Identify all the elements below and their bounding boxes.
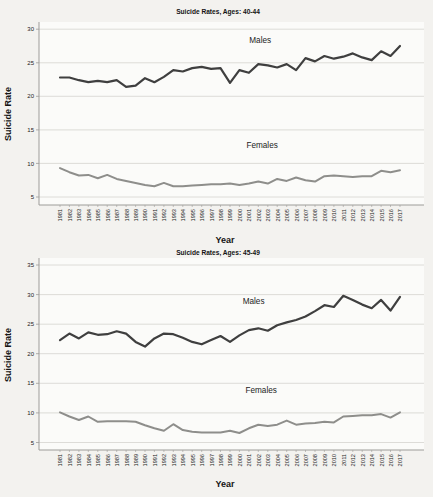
x-tick-label: 1982 <box>67 454 73 466</box>
x-tick-label: 2003 <box>265 209 271 221</box>
plot-area-45-49: 5101520253035198119821983198419851986198… <box>27 258 424 466</box>
x-tick-label: 1992 <box>161 454 167 466</box>
x-tick-label: 1988 <box>124 454 130 466</box>
x-tick-label: 1987 <box>114 454 120 466</box>
y-tick-label: 15 <box>27 127 34 133</box>
x-tick-label: 2012 <box>350 454 356 466</box>
x-tick-label: 1999 <box>227 454 233 466</box>
x-tick-label: 2003 <box>265 454 271 466</box>
plot-area-40-44: 5101520253019811982198319841985198619871… <box>27 22 424 221</box>
x-tick-label: 1994 <box>180 209 186 221</box>
x-tick-label: 1984 <box>86 454 92 466</box>
figure: Suicide Rates, Ages: 40-44 Suicide Rate … <box>0 0 433 497</box>
x-tick-label: 1988 <box>124 209 130 221</box>
x-tick-label: 2008 <box>312 454 318 466</box>
x-tick-label: 1990 <box>142 209 148 221</box>
x-tick-label: 2010 <box>331 454 337 466</box>
females-series-label: Females <box>245 386 276 395</box>
x-tick-label: 2013 <box>360 454 366 466</box>
x-tick-label: 2007 <box>303 209 309 221</box>
x-tick-label: 2006 <box>294 454 300 466</box>
x-tick-label: 1996 <box>199 209 205 221</box>
x-tick-label: 2000 <box>237 454 243 466</box>
x-tick-label: 1984 <box>86 209 92 221</box>
x-tick-label: 2009 <box>322 209 328 221</box>
x-tick-label: 1982 <box>67 209 73 221</box>
y-tick-label: 5 <box>31 194 35 200</box>
x-tick-label: 2002 <box>256 454 262 466</box>
x-tick-label: 2008 <box>312 209 318 221</box>
y-tick-label: 30 <box>27 26 34 32</box>
x-tick-label: 2005 <box>284 454 290 466</box>
x-tick-label: 1999 <box>227 209 233 221</box>
y-tick-label: 10 <box>27 410 34 416</box>
x-tick-label: 2005 <box>284 209 290 221</box>
y-tick-label: 25 <box>27 321 34 327</box>
x-tick-label: 2009 <box>322 454 328 466</box>
x-tick-label: 1983 <box>76 454 82 466</box>
y-tick-label: 25 <box>27 60 34 66</box>
x-tick-label: 2001 <box>246 454 252 466</box>
x-tick-label: 2007 <box>303 454 309 466</box>
y-tick-label: 10 <box>27 161 34 167</box>
x-tick-label: 1996 <box>199 454 205 466</box>
x-tick-label: 1985 <box>95 209 101 221</box>
x-tick-label: 1986 <box>105 454 111 466</box>
x-tick-label: 2016 <box>388 209 394 221</box>
x-tick-label: 2016 <box>388 454 394 466</box>
chart-title: Suicide Rates, Ages: 45-49 <box>176 249 260 257</box>
y-tick-label: 15 <box>27 380 34 386</box>
x-tick-label: 1998 <box>218 454 224 466</box>
x-tick-label: 2004 <box>275 454 281 466</box>
x-tick-label: 1981 <box>57 454 63 466</box>
x-tick-label: 1997 <box>209 209 215 221</box>
x-tick-label: 2015 <box>379 454 385 466</box>
x-tick-label: 1991 <box>152 454 158 466</box>
chart-ages-45-49: Suicide Rates, Ages: 45-49 Suicide Rate … <box>3 249 424 489</box>
x-tick-label: 2002 <box>256 209 262 221</box>
y-tick-label: 20 <box>27 351 34 357</box>
x-axis-title: Year <box>215 479 235 489</box>
x-tick-label: 2001 <box>246 209 252 221</box>
x-tick-label: 2013 <box>360 209 366 221</box>
y-tick-label: 30 <box>27 292 34 298</box>
x-tick-label: 1997 <box>209 454 215 466</box>
y-tick-label: 20 <box>27 93 34 99</box>
x-tick-label: 1995 <box>190 209 196 221</box>
x-tick-label: 2017 <box>397 454 403 466</box>
x-tick-label: 1993 <box>171 209 177 221</box>
x-tick-label: 2011 <box>341 209 347 221</box>
x-tick-label: 1985 <box>95 454 101 466</box>
chart-title: Suicide Rates, Ages: 40-44 <box>176 8 260 16</box>
x-axis-title: Year <box>215 235 235 245</box>
x-tick-label: 1987 <box>114 209 120 221</box>
x-tick-label: 2006 <box>294 209 300 221</box>
males-series-label: Males <box>249 36 271 45</box>
x-tick-label: 1990 <box>142 454 148 466</box>
x-tick-label: 1989 <box>133 454 139 466</box>
y-axis-title: Suicide Rate <box>3 328 13 382</box>
y-axis-title: Suicide Rate <box>3 87 13 141</box>
x-tick-label: 1993 <box>171 454 177 466</box>
x-tick-label: 1986 <box>105 209 111 221</box>
x-tick-label: 2012 <box>350 209 356 221</box>
x-tick-label: 1981 <box>57 209 63 221</box>
females-series-label: Females <box>246 141 277 150</box>
x-tick-label: 1995 <box>190 454 196 466</box>
x-tick-label: 2004 <box>275 209 281 221</box>
x-tick-label: 2000 <box>237 209 243 221</box>
chart-ages-40-44: Suicide Rates, Ages: 40-44 Suicide Rate … <box>3 8 424 245</box>
x-tick-label: 1991 <box>152 209 158 221</box>
y-tick-label: 35 <box>27 262 34 268</box>
x-tick-label: 2015 <box>379 209 385 221</box>
x-tick-label: 1992 <box>161 209 167 221</box>
x-tick-label: 1998 <box>218 209 224 221</box>
x-tick-label: 2017 <box>397 209 403 221</box>
y-tick-label: 5 <box>31 440 35 446</box>
x-tick-label: 2010 <box>331 209 337 221</box>
charts-canvas: Suicide Rates, Ages: 40-44 Suicide Rate … <box>0 0 433 497</box>
x-tick-label: 1989 <box>133 209 139 221</box>
x-tick-label: 1994 <box>180 454 186 466</box>
males-series-label: Males <box>243 297 265 306</box>
x-tick-label: 2014 <box>369 454 375 466</box>
